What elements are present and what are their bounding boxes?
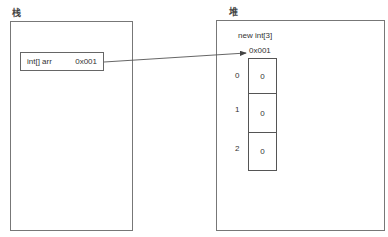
array-cell-2: 0: [248, 132, 277, 171]
array-index-0: 0: [235, 71, 239, 80]
array-cell-1: 0: [248, 93, 277, 133]
array-cell-0: 0: [248, 58, 277, 94]
heap-region: [216, 20, 385, 231]
array-index-1: 1: [235, 105, 239, 114]
stack-label: 栈: [12, 6, 21, 19]
heap-label: 堆: [229, 5, 238, 18]
variable-value: 0x001: [75, 57, 97, 66]
variable-declaration: int[] arr: [27, 57, 52, 66]
array-address: 0x001: [249, 46, 271, 55]
array-index-2: 2: [235, 144, 239, 153]
array-expression: new int[3]: [238, 31, 272, 40]
stack-variable-arr: int[] arr 0x001: [20, 52, 104, 71]
